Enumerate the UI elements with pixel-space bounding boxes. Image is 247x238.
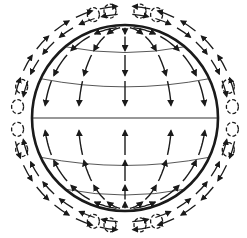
- circulation-arrow: [43, 182, 54, 194]
- circulation-arrow: [79, 212, 94, 218]
- meridian-arrow: [79, 131, 83, 155]
- circulation-arrow: [211, 162, 219, 176]
- circulation-arrow: [218, 165, 227, 180]
- meridian-arrow: [199, 81, 205, 105]
- meridian-arrow: [160, 36, 179, 50]
- meridian-arrow: [45, 81, 51, 105]
- circulation-arrow: [181, 21, 196, 31]
- meridian-arrow: [71, 36, 90, 50]
- globe-circulation-diagram: [0, 0, 247, 238]
- circulation-cell: [12, 100, 24, 114]
- circulation-arrow: [177, 199, 190, 208]
- circulation-arrow: [60, 28, 73, 37]
- circulation-cell: [151, 214, 163, 228]
- meridian-arrow: [145, 36, 156, 50]
- meridian-arrow: [94, 185, 105, 199]
- circulation-arrow: [158, 219, 174, 225]
- meridian-arrow: [94, 36, 105, 50]
- circulation-arrow: [24, 55, 33, 70]
- circulation-arrow: [196, 42, 207, 54]
- circulation-cell: [226, 100, 238, 114]
- circulation-cell: [12, 122, 24, 136]
- circulation-cell: [87, 214, 99, 228]
- circulation-arrow: [31, 162, 39, 176]
- circulation-arrow: [55, 21, 70, 31]
- meridian-arrow: [54, 161, 67, 181]
- meridian-arrow: [45, 131, 51, 155]
- circulation-arrow: [60, 199, 73, 208]
- meridian-arrow: [199, 131, 205, 155]
- circulation-cell: [151, 8, 163, 22]
- circulation-arrow: [55, 205, 70, 215]
- circulation-arrow: [24, 165, 33, 180]
- circulation-cell: [87, 8, 99, 22]
- meridian-arrow: [183, 55, 196, 75]
- circulation-arrow: [201, 187, 213, 200]
- circulation-arrow: [201, 36, 213, 49]
- circulation-arrow: [222, 140, 227, 156]
- circulation-arrow: [222, 81, 227, 97]
- circulation-arrow: [43, 42, 54, 54]
- circulation-arrow: [37, 187, 49, 200]
- meridian-arrow: [84, 55, 92, 75]
- circulation-arrow: [211, 60, 219, 74]
- diagram-canvas: [0, 0, 247, 238]
- circulation-cell: [226, 122, 238, 136]
- circulation-arrow: [158, 11, 174, 17]
- meridian-arrow: [145, 185, 156, 199]
- circulation-arrow: [177, 28, 190, 37]
- circulation-arrow: [76, 219, 92, 225]
- circulation-arrow: [196, 182, 207, 194]
- circulation-arrow: [37, 36, 49, 49]
- circulation-arrow: [79, 19, 94, 25]
- circulation-arrow: [76, 11, 92, 17]
- meridian-arrow: [168, 131, 172, 155]
- meridian-arrow: [158, 55, 166, 75]
- meridian-arrow: [183, 161, 196, 181]
- meridian-arrow: [54, 55, 67, 75]
- circulation-arrow: [181, 205, 196, 215]
- circulation-arrow: [218, 55, 227, 70]
- circulation-arrow: [31, 60, 39, 74]
